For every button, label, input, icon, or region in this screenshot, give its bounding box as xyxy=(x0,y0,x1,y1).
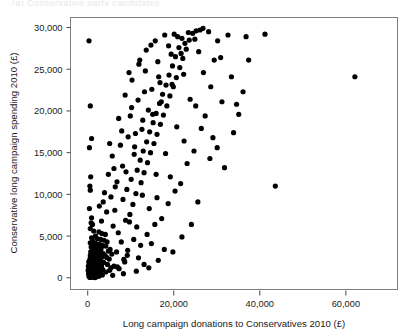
data-point xyxy=(178,51,183,56)
data-point xyxy=(140,193,145,198)
data-point xyxy=(113,184,118,189)
y-tick-label: 30,000 xyxy=(34,23,62,33)
data-point xyxy=(208,84,213,89)
data-point xyxy=(111,166,116,171)
data-point xyxy=(169,82,174,87)
data-point xyxy=(196,49,201,54)
y-tick-label: 5,000 xyxy=(39,232,62,242)
data-point xyxy=(158,122,163,127)
data-point xyxy=(161,113,166,118)
data-point xyxy=(352,74,357,79)
data-point xyxy=(195,199,200,204)
data-point xyxy=(177,65,182,70)
data-point xyxy=(141,170,146,175)
data-point xyxy=(110,273,115,278)
data-point xyxy=(186,30,191,35)
data-point xyxy=(193,103,198,108)
data-point xyxy=(231,130,236,135)
x-axis-label: Long campaign donations to Conservatives… xyxy=(123,318,345,329)
data-point xyxy=(107,268,112,273)
data-point xyxy=(111,223,116,228)
data-point xyxy=(126,70,131,75)
data-point xyxy=(200,26,205,31)
data-point xyxy=(160,92,165,97)
data-point xyxy=(136,255,141,260)
data-point xyxy=(152,222,157,227)
scatter-plot-figure: (a) Conservative party candidates 05,000… xyxy=(0,0,414,336)
data-point xyxy=(151,120,156,125)
x-tick-label: 0 xyxy=(85,299,90,309)
data-point xyxy=(163,82,168,87)
data-point xyxy=(91,229,96,234)
data-point xyxy=(103,232,108,237)
data-point xyxy=(134,224,139,229)
x-tick-label: 40,000 xyxy=(246,299,274,309)
data-point xyxy=(206,29,211,34)
data-point xyxy=(240,89,245,94)
x-axis-ticks: 020,00040,00060,000 xyxy=(85,291,360,309)
data-point xyxy=(139,127,144,132)
plot-frame xyxy=(71,18,398,290)
data-point xyxy=(141,148,146,153)
data-point xyxy=(125,253,130,258)
data-point xyxy=(180,56,185,61)
data-point xyxy=(144,47,149,52)
data-point xyxy=(119,128,124,133)
data-point xyxy=(154,172,159,177)
data-point xyxy=(99,218,104,223)
data-point xyxy=(154,195,159,200)
data-point xyxy=(130,202,135,207)
data-point xyxy=(87,145,92,150)
data-point xyxy=(131,237,136,242)
data-point xyxy=(156,74,161,79)
data-point xyxy=(151,141,156,146)
data-point xyxy=(138,158,143,163)
data-point xyxy=(132,144,137,149)
data-point xyxy=(154,132,159,137)
data-point xyxy=(129,105,134,110)
data-point xyxy=(174,124,179,129)
data-point xyxy=(118,143,123,148)
data-point xyxy=(88,174,93,179)
data-point xyxy=(144,232,149,237)
data-point xyxy=(215,145,220,150)
data-point xyxy=(164,103,169,108)
data-point xyxy=(123,169,128,174)
data-point xyxy=(89,136,94,141)
data-point xyxy=(138,243,143,248)
data-point xyxy=(114,249,119,254)
y-tick-label: 20,000 xyxy=(34,106,62,116)
y-tick-label: 25,000 xyxy=(34,65,62,75)
data-point xyxy=(178,181,183,186)
data-point xyxy=(163,151,168,156)
y-axis-ticks: 05,00010,00015,00020,00025,00030,000 xyxy=(34,23,70,283)
data-point xyxy=(133,131,138,136)
data-point xyxy=(189,222,194,227)
data-point xyxy=(225,32,230,37)
data-point xyxy=(210,135,215,140)
data-point xyxy=(103,244,108,249)
y-tick-label: 10,000 xyxy=(34,190,62,200)
data-point xyxy=(129,177,134,182)
data-point xyxy=(148,150,153,155)
data-point xyxy=(140,118,145,123)
data-point xyxy=(123,93,128,98)
data-point xyxy=(170,63,175,68)
chart-svg: 05,00010,00015,00020,00025,00030,000 020… xyxy=(0,0,414,336)
data-point xyxy=(219,99,224,104)
data-point xyxy=(119,239,124,244)
data-point xyxy=(150,112,155,117)
x-tick-label: 60,000 xyxy=(332,299,360,309)
data-point xyxy=(212,57,217,62)
data-point xyxy=(128,113,133,118)
data-point xyxy=(187,37,192,42)
data-point xyxy=(86,259,91,264)
data-point xyxy=(129,77,134,82)
data-point xyxy=(155,59,160,64)
data-point xyxy=(167,93,172,98)
data-point xyxy=(157,80,162,85)
data-point xyxy=(132,152,137,157)
data-point xyxy=(87,206,92,211)
data-point xyxy=(222,165,227,170)
data-point xyxy=(107,141,112,146)
